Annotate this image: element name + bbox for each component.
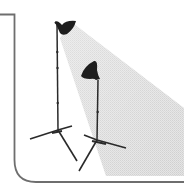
studio-lights-illustration bbox=[0, 0, 184, 188]
light-beam-icon bbox=[60, 24, 184, 176]
